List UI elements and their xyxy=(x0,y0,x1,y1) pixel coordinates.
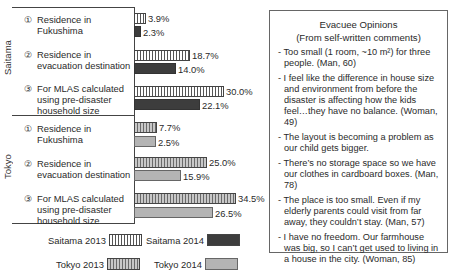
value-label: 22.1% xyxy=(202,100,229,111)
legend-swatch xyxy=(109,234,142,246)
bar-saitama-2014-c1 xyxy=(134,26,141,37)
opinions-title: Evacuee Opinions xyxy=(276,19,441,30)
value-label: 7.7% xyxy=(159,122,180,133)
bar-tokyo-2014-c3 xyxy=(134,207,213,218)
legend-label: Tokyo 2013 xyxy=(56,259,104,270)
value-label: 2.5% xyxy=(158,137,179,148)
category-number: ② xyxy=(24,49,37,60)
opinion-item: - The layout is becoming a problem as ou… xyxy=(276,132,441,154)
value-label: 15.9% xyxy=(183,171,210,182)
opinions-subtitle: (From self-written comments) xyxy=(276,32,441,43)
value-label: 3.9% xyxy=(148,13,169,24)
category-number: ② xyxy=(24,158,37,169)
bar-tokyo-2014-c1 xyxy=(134,136,156,147)
value-label: 26.5% xyxy=(215,208,242,219)
legend-saitama-2013: Saitama 2013 xyxy=(48,234,142,246)
category-number: ③ xyxy=(24,193,37,204)
value-label: 30.0% xyxy=(226,86,253,97)
category-number: ① xyxy=(24,14,37,25)
group-name-saitama: Saitama xyxy=(2,28,20,88)
value-label: 18.7% xyxy=(192,50,219,61)
category-number: ③ xyxy=(24,83,37,94)
category-text: For MLAS calculated using pre-disaster h… xyxy=(37,83,132,116)
value-label: 2.3% xyxy=(143,27,164,38)
group-name-tokyo: Tokyo xyxy=(2,142,20,192)
legend-swatch xyxy=(205,258,238,270)
bar-saitama-2014-c2 xyxy=(134,63,176,74)
bar-tokyo-2013-c3 xyxy=(134,193,236,204)
category-text: Residence in evacuation destination xyxy=(37,49,132,71)
opinion-item: - The place is too small. Even if my eld… xyxy=(276,195,441,228)
category-label: ②Residence in evacuation destination xyxy=(24,49,134,71)
bar-saitama-2013-c1 xyxy=(134,13,146,24)
legend-swatch xyxy=(207,234,240,246)
evacuee-opinions-box: Evacuee Opinions (From self-written comm… xyxy=(269,10,448,253)
category-label: ③For MLAS calculated using pre-disaster … xyxy=(24,193,134,226)
legend-label: Saitama 2013 xyxy=(48,235,106,246)
category-text: Residence in evacuation destination xyxy=(37,158,132,180)
bar-tokyo-2014-c2 xyxy=(134,170,181,181)
category-label: ①Residence in Fukushima xyxy=(24,123,134,145)
value-label: 34.5% xyxy=(238,193,265,204)
value-label: 25.0% xyxy=(209,157,236,168)
category-label: ②Residence in evacuation destination xyxy=(24,158,134,180)
value-label: 14.0% xyxy=(178,64,205,75)
category-number: ① xyxy=(24,123,37,134)
legend-saitama-2014: Saitama 2014 xyxy=(146,234,240,246)
bar-saitama-2014-c3 xyxy=(134,99,200,110)
category-text: For MLAS calculated using pre-disaster h… xyxy=(37,193,132,226)
bar-tokyo-2013-c1 xyxy=(134,122,157,133)
category-label: ①Residence in Fukushima xyxy=(24,14,134,36)
category-text: Residence in Fukushima xyxy=(37,14,132,36)
legend-tokyo-2014: Tokyo 2014 xyxy=(154,258,238,270)
legend-tokyo-2013: Tokyo 2013 xyxy=(56,258,140,270)
chart-figure: Saitama Tokyo ①Residence in Fukushima ②R… xyxy=(0,0,456,279)
opinion-item: - There’s no storage space so we have ou… xyxy=(276,158,441,191)
category-label: ③For MLAS calculated using pre-disaster … xyxy=(24,83,134,116)
bar-saitama-2013-c3 xyxy=(134,86,224,97)
opinion-item: - I have no freedom. Our farmhouse was b… xyxy=(276,232,441,265)
bar-tokyo-2013-c2 xyxy=(134,157,207,168)
opinions-list: - Too small (1 room, ~10 m²) for three p… xyxy=(276,47,441,265)
legend-label: Tokyo 2014 xyxy=(154,259,202,270)
bar-saitama-2013-c2 xyxy=(134,50,190,61)
opinion-item: - Too small (1 room, ~10 m²) for three p… xyxy=(276,47,441,69)
legend-swatch xyxy=(107,258,140,270)
opinion-item: - I feel like the difference in house si… xyxy=(276,73,441,128)
legend-label: Saitama 2014 xyxy=(146,235,204,246)
category-text: Residence in Fukushima xyxy=(37,123,132,145)
